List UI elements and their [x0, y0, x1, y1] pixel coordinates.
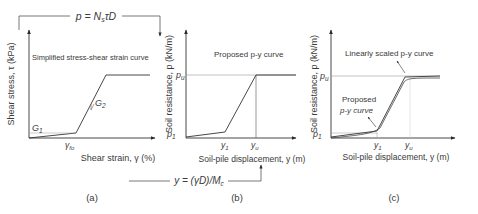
figure-canvas: p = NsτD Shear stress, τ (kPa) Simplifie… — [0, 0, 478, 214]
x-axis-label: Soil-pile displacement, y (m) — [343, 152, 450, 162]
bottom-relation-formula: y = (γD)/Mc — [173, 175, 224, 187]
p1-label: p1 — [166, 129, 176, 140]
proposed-annotation-arrow — [368, 117, 376, 127]
yu-tick: yu — [250, 140, 259, 151]
g2-label: G2 — [95, 98, 106, 109]
top-relation-bracket: p = NsτD — [19, 10, 160, 36]
panel-caption: (c) — [388, 192, 399, 203]
x-axis-label: Soil-pile displacement, y (m) — [199, 154, 306, 164]
y-axis-label: Shear stress, τ (kPa) — [6, 42, 16, 125]
y-axis-label: Soil resistance, p (kN/m) — [309, 35, 319, 133]
proposed-curve-annotation-line1: Proposed — [342, 95, 376, 104]
y1-tick: y1 — [220, 140, 229, 151]
g2-slope-marker — [91, 104, 94, 110]
g1-label: G1 — [32, 123, 43, 134]
scaled-annotation-arrow — [397, 61, 405, 73]
proposed-curve-annotation-line2: p-y curve — [339, 106, 373, 115]
panel-caption: (b) — [231, 192, 243, 203]
y1-tick: y1 — [373, 140, 382, 151]
scaled-curve-annotation: Linearly scaled p-y curve — [345, 49, 434, 58]
panel-title: Simplified stress-shear strain curve — [32, 53, 149, 62]
p1-label: p1 — [312, 129, 322, 140]
panel-a: Shear stress, τ (kPa) Simplified stress-… — [6, 30, 155, 203]
pu-label: pu — [319, 71, 329, 82]
yu-tick: yu — [404, 140, 413, 151]
pu-label: pu — [175, 70, 185, 81]
y-axis-label: Soil resistance, p (kN/m) — [164, 35, 174, 133]
panel-caption: (a) — [86, 192, 98, 203]
top-relation-formula: p = NsτD — [75, 10, 117, 23]
stress-strain-curve — [29, 75, 150, 138]
py-curve — [186, 75, 296, 137]
x-axis-label: Shear strain, γ (%) — [81, 153, 156, 163]
panel-c: Soil resistance, p (kN/m) Linearly scale… — [309, 30, 455, 203]
panel-title: Proposed p-y curve — [214, 50, 284, 59]
gamma-fo-tick: γfo — [65, 140, 75, 151]
bottom-relation-bracket: y = (γD)/Mc — [129, 165, 261, 187]
